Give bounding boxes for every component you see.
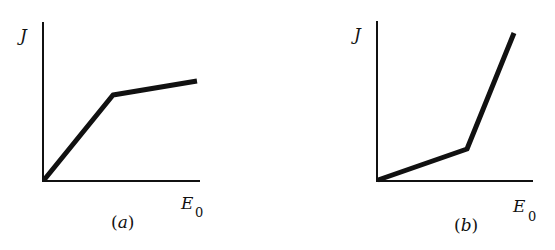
panel-a-caption: (a) [111, 214, 134, 231]
panel-b-caption: (b) [454, 217, 478, 234]
figure-canvas [0, 0, 555, 250]
panel-b-y-label: J [354, 26, 361, 43]
panel-b-x-label: E [513, 198, 525, 215]
panel-a-curve [44, 81, 197, 180]
panel-a-y-label: J [20, 27, 27, 44]
panel-a [42, 22, 200, 182]
panel-b-x-label-subscript: 0 [528, 210, 536, 223]
panel-b-curve [378, 33, 514, 180]
panel-a-x-label-subscript: 0 [195, 206, 203, 219]
panel-a-x-label: E [181, 195, 193, 212]
panel-b [376, 21, 533, 182]
